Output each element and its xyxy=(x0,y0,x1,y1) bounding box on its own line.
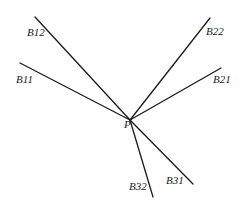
ray-label-b11: B11 xyxy=(16,73,33,85)
ray-line-b11 xyxy=(20,63,130,120)
ray-label-b12: B12 xyxy=(27,26,45,38)
ray-line-b22 xyxy=(130,18,210,120)
ray-label-b32: B32 xyxy=(129,180,147,192)
diagram-canvas: B12B11B22B21B32B31P xyxy=(0,0,242,209)
ray-diagram: B12B11B22B21B32B31P xyxy=(0,0,242,209)
ray-line-b21 xyxy=(130,68,221,120)
ray-label-b22: B22 xyxy=(206,25,224,37)
ray-label-b21: B21 xyxy=(213,73,231,85)
ray-label-b31: B31 xyxy=(166,174,184,186)
ray-line-b12 xyxy=(35,17,130,120)
point-label-p: P xyxy=(123,118,131,130)
